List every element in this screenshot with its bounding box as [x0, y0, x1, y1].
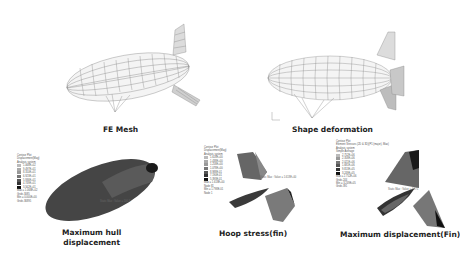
- caption-fe-mesh: FE Mesh: [103, 125, 138, 134]
- airship-deformed-mesh-image: [262, 20, 432, 125]
- annotation-hull-max: Static Max : Value = 106.8: [100, 200, 130, 203]
- legend-hull-displacement: Contour Plot Displacement(Mag) Analysis …: [17, 154, 40, 203]
- caption-max-hull-displacement: Maximum hull displacement: [62, 228, 121, 248]
- hoop-stress-fin-image: [225, 150, 315, 230]
- panel-shape-deformation: [262, 20, 432, 125]
- panel-fe-mesh: [60, 10, 220, 120]
- caption-max-displacement-fin: Maximum displacement(Fin): [340, 230, 460, 239]
- caption-hoop-stress-fin: Hoop stress(fin): [219, 229, 287, 238]
- annotation-fin-max: Static Max : Value = 4.375: [388, 188, 418, 191]
- caption-shape-deformation: Shape deformation: [292, 125, 373, 134]
- airship-mesh-image: [60, 10, 220, 120]
- hull-displacement-contour-image: [42, 152, 162, 227]
- legend-hoop-stress: Contour Plot Displacement(Mag) Analysis …: [204, 146, 227, 195]
- annotation-hoop-max: Static Max : Value = 1.618E+00: [260, 176, 296, 179]
